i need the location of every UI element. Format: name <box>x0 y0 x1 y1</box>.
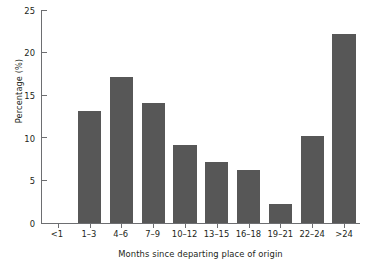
x-axis-tick-mark <box>280 223 281 228</box>
x-axis-tick-mark <box>312 223 313 228</box>
bar-chart: Percentage (%) 0510152025 <11–34–67–910–… <box>0 0 367 264</box>
bar-slot <box>137 10 169 223</box>
x-axis-tick-mark <box>185 223 186 228</box>
x-axis-tick-mark <box>58 223 59 228</box>
bar <box>110 77 133 223</box>
bar-slot <box>42 10 74 223</box>
bar <box>301 136 324 223</box>
bar-slot <box>201 10 233 223</box>
bar <box>269 204 292 223</box>
y-axis-tick-label: 10 <box>24 134 42 142</box>
x-axis-tick-label: 16–18 <box>232 229 264 239</box>
x-axis-tick-label: <1 <box>41 229 73 239</box>
bar-slot <box>169 10 201 223</box>
x-axis-tick-mark <box>344 223 345 228</box>
bar-slot <box>74 10 106 223</box>
x-axis-tick-label: 1–3 <box>73 229 105 239</box>
x-axis-tick-label: 4–6 <box>105 229 137 239</box>
x-axis-title: Months since departing place of origin <box>41 249 360 259</box>
x-axis-tick-mark <box>217 223 218 228</box>
y-axis-tick-label: 25 <box>24 6 42 14</box>
bar <box>332 34 355 223</box>
bar-series <box>42 10 360 223</box>
x-axis-tick-label: >24 <box>328 229 360 239</box>
x-axis-tick-mark <box>90 223 91 228</box>
x-axis-tick-mark <box>249 223 250 228</box>
y-axis-tick-label: 15 <box>24 92 42 100</box>
bar <box>142 103 165 223</box>
bar-slot <box>106 10 138 223</box>
bar-slot <box>328 10 360 223</box>
x-axis-tick-label: 22–24 <box>296 229 328 239</box>
bar <box>78 111 101 223</box>
y-axis-tick-label: 5 <box>30 177 42 185</box>
x-axis-tick-label: 19–21 <box>264 229 296 239</box>
y-axis-tick-label: 0 <box>30 219 42 227</box>
y-axis-title: Percentage (%) <box>14 31 24 151</box>
bar <box>173 145 196 223</box>
plot-area: 0510152025 <box>41 10 360 224</box>
bar <box>237 170 260 223</box>
bar-slot <box>296 10 328 223</box>
x-axis-tick-mark <box>153 223 154 228</box>
bar-slot <box>265 10 297 223</box>
x-axis-tick-label: 10–12 <box>169 229 201 239</box>
x-axis-tick-label: 7–9 <box>137 229 169 239</box>
y-axis-tick-label: 20 <box>24 49 42 57</box>
x-axis-tick-label: 13–15 <box>201 229 233 239</box>
x-axis-tick-mark <box>121 223 122 228</box>
x-axis-labels: <11–34–67–910–1213–1516–1819–2122–24>24 <box>41 229 360 239</box>
bar-slot <box>233 10 265 223</box>
bar <box>205 162 228 223</box>
